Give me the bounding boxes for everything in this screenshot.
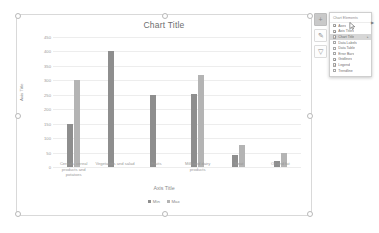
x-axis-label: Fruits <box>136 161 176 185</box>
y-axis-tick: 400 <box>44 49 51 54</box>
checkbox-icon[interactable] <box>333 41 336 44</box>
checkbox-icon[interactable] <box>333 69 336 72</box>
resize-handle-middle-right[interactable] <box>307 113 313 119</box>
y-axis-tick: 200 <box>44 107 51 112</box>
checkbox-icon[interactable] <box>333 47 336 50</box>
plot-area[interactable] <box>53 37 301 167</box>
bar-group <box>150 37 163 167</box>
bar-group <box>67 37 80 167</box>
chart-title[interactable]: Chart Title <box>17 20 311 30</box>
checkbox-icon[interactable]: ✓ <box>333 24 336 27</box>
mouse-cursor-icon <box>349 22 356 30</box>
chart-filters-icon[interactable]: ▽ <box>314 45 327 58</box>
y-axis-tick: 50 <box>46 150 51 155</box>
resize-handle-top-center[interactable] <box>162 13 168 19</box>
y-axis-title[interactable]: Axis Title <box>19 83 24 101</box>
panel-item-label: Data Table <box>338 46 355 50</box>
bar-max[interactable] <box>74 80 80 167</box>
y-axis-tick: 450 <box>44 35 51 40</box>
x-axis-title[interactable]: Axis Title <box>17 185 311 191</box>
legend-swatch <box>148 200 151 203</box>
y-axis-tick: 350 <box>44 63 51 68</box>
bar-groups <box>53 37 301 167</box>
panel-item-trendline[interactable]: Trendline <box>330 68 371 74</box>
x-axis-label: Vegetables and salad <box>95 161 135 185</box>
x-axis-label: Cereals, cereal products and potatoes <box>54 161 94 185</box>
x-axis-label: Oil and fat <box>260 161 300 185</box>
x-axis-category-labels: Cereals, cereal products and potatoesVeg… <box>53 161 301 185</box>
panel-item-label: Trendline <box>338 69 352 73</box>
resize-handle-top-right[interactable] <box>307 13 313 19</box>
chevron-right-icon[interactable]: ▸ <box>367 35 369 39</box>
legend-item[interactable]: Max <box>167 199 180 204</box>
checkbox-icon[interactable]: ✓ <box>333 35 336 38</box>
bar-group <box>108 37 121 167</box>
y-axis-tick: 100 <box>44 136 51 141</box>
panel-item-list: ✓Axes✓Axis Titles✓Chart Title▸Data Label… <box>330 23 371 73</box>
legend-swatch <box>167 200 170 203</box>
resize-handle-bottom-left[interactable] <box>15 211 21 217</box>
resize-handle-middle-left[interactable] <box>15 113 21 119</box>
chart-elements-icon[interactable]: + <box>314 13 327 26</box>
bar-group <box>191 37 204 167</box>
bar-group <box>232 37 245 167</box>
checkbox-icon[interactable] <box>333 52 336 55</box>
bar-max[interactable] <box>198 75 204 167</box>
bar-min[interactable] <box>108 51 114 167</box>
y-axis-tick: 150 <box>44 121 51 126</box>
legend-label: Max <box>171 199 179 204</box>
checkbox-icon[interactable]: ✓ <box>333 63 336 66</box>
legend-label: Min <box>153 199 160 204</box>
bar-min[interactable] <box>150 95 156 167</box>
panel-item-label: Chart Title <box>338 35 354 39</box>
submenu-caret-icon: ▶ <box>371 20 374 25</box>
y-axis-tick: 0 <box>49 165 51 170</box>
checkbox-icon[interactable]: ✓ <box>333 30 336 33</box>
chart-legend[interactable]: MinMax <box>17 199 311 204</box>
legend-item[interactable]: Min <box>148 199 160 204</box>
chart-object[interactable]: Chart Title 450400350300250200150100500 … <box>16 14 312 216</box>
bar-min[interactable] <box>191 94 197 167</box>
panel-item-label: Legend <box>338 63 350 67</box>
panel-item-label: Error Bars <box>338 52 354 56</box>
panel-item-label: Axes <box>338 24 346 28</box>
resize-handle-bottom-center[interactable] <box>162 211 168 217</box>
chart-styles-icon[interactable]: ✎ <box>314 29 327 42</box>
panel-item-label: Data Labels <box>338 41 357 45</box>
x-axis-label: Milk and dairy products <box>178 161 218 185</box>
checkbox-icon[interactable]: ✓ <box>333 58 336 61</box>
y-axis-tick: 300 <box>44 78 51 83</box>
chart-side-buttons: +✎▽ <box>314 13 327 61</box>
x-axis-label: Meat <box>219 161 259 185</box>
y-axis-tick-labels: 450400350300250200150100500 <box>33 37 51 167</box>
panel-item-label: Gridlines <box>338 57 352 61</box>
resize-handle-bottom-right[interactable] <box>307 211 313 217</box>
resize-handle-top-left[interactable] <box>15 13 21 19</box>
y-axis-tick: 250 <box>44 92 51 97</box>
bar-group <box>274 37 287 167</box>
